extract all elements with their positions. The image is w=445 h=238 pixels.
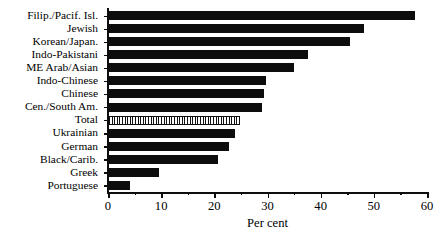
bar [108, 24, 364, 33]
bar [108, 142, 229, 151]
bar [108, 63, 294, 72]
bar-chart: Filip./Pacif. Isl.JewishKorean/Japan.Ind… [0, 0, 445, 238]
category-label-2: Jewish [0, 23, 98, 34]
x-axis-title: Per cent [108, 216, 427, 231]
x-tick-major [321, 192, 323, 198]
category-label-13: Greek [0, 167, 98, 178]
x-tick-major [214, 192, 216, 198]
bar [108, 37, 350, 46]
y-axis-line [107, 8, 109, 193]
bar [108, 89, 264, 98]
x-tick-label: 10 [141, 199, 181, 214]
bar [108, 76, 266, 85]
x-tick-major [161, 192, 163, 198]
category-label-12: Black/Carib. [0, 154, 98, 165]
bar [108, 50, 308, 59]
x-tick-major [108, 192, 110, 198]
x-tick-minor [135, 192, 136, 195]
x-tick-minor [294, 192, 295, 195]
category-label-1: Filip./Pacif. Isl. [0, 10, 98, 21]
plot-area [108, 9, 427, 192]
bar-total [108, 116, 240, 125]
bar [108, 11, 415, 20]
category-label-10: Ukrainian [0, 127, 98, 138]
x-tick-label: 60 [407, 199, 445, 214]
bar [108, 181, 130, 190]
category-label-5: ME Arab/Asian [0, 62, 98, 73]
category-label-4: Indo-Pakistani [0, 49, 98, 60]
bar [108, 168, 159, 177]
x-tick-label: 40 [301, 199, 341, 214]
x-tick-minor [400, 192, 401, 195]
x-tick-major [374, 192, 376, 198]
x-tick-label: 30 [248, 199, 288, 214]
category-label-3: Korean/Japan. [0, 36, 98, 47]
category-label-9: Total [0, 114, 98, 125]
x-tick-minor [188, 192, 189, 195]
category-axis-labels: Filip./Pacif. Isl.JewishKorean/Japan.Ind… [0, 9, 102, 192]
x-tick-minor [241, 192, 242, 195]
x-tick-major [268, 192, 270, 198]
category-label-11: German [0, 141, 98, 152]
x-tick-label: 20 [194, 199, 234, 214]
category-label-14: Portuguese [0, 180, 98, 191]
x-tick-minor [347, 192, 348, 195]
bar [108, 103, 262, 112]
x-tick-label: 0 [88, 199, 128, 214]
x-tick-label: 50 [354, 199, 394, 214]
bar [108, 129, 235, 138]
category-label-8: Cen./South Am. [0, 101, 98, 112]
x-tick-major [427, 192, 429, 198]
category-label-6: Indo-Chinese [0, 75, 98, 86]
category-label-7: Chinese [0, 88, 98, 99]
bar [108, 155, 218, 164]
